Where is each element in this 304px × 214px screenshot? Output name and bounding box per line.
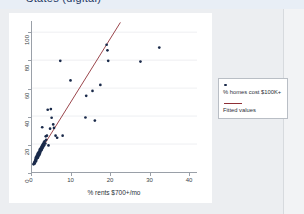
y-tick-label: 80 (24, 60, 30, 76)
x-tick-label: 10 (63, 177, 79, 183)
x-tick-mark (189, 173, 190, 176)
legend-entry-fitted: Fitted values (223, 100, 283, 114)
x-axis-title: % rents $700+/mo (31, 189, 197, 196)
x-tick-mark (110, 173, 111, 176)
y-tick-label: 40 (24, 116, 30, 132)
y-tick-label: 60 (24, 88, 30, 104)
fitted-line-icon (223, 100, 283, 106)
legend-label-scatter: % homes cost $100K+ (223, 89, 283, 96)
slide-title-strip: States (digital) (0, 0, 304, 9)
slide-page: States (digital) 020406080100 010203040 … (0, 0, 304, 214)
scatter-dot-icon (223, 82, 283, 88)
chart-figure: 020406080100 010203040 % rents $700+/mo (9, 13, 212, 203)
legend-entry-scatter: % homes cost $100K+ (223, 82, 283, 96)
x-tick-label: 0 (23, 177, 39, 183)
plot-area (31, 21, 197, 173)
x-tick-mark (71, 173, 72, 176)
x-tick-label: 20 (102, 177, 118, 183)
slide-title-cutoff: States (digital) (26, 0, 101, 4)
x-tick-mark (150, 173, 151, 176)
scatter-plot-canvas (32, 21, 197, 172)
y-tick-label: 20 (24, 144, 30, 160)
x-tick-label: 30 (142, 177, 158, 183)
x-tick-label: 40 (181, 177, 197, 183)
legend-label-fitted: Fitted values (223, 107, 283, 114)
y-tick-label: 100 (24, 32, 30, 48)
chart-legend: % homes cost $100K+ Fitted values (218, 78, 288, 119)
x-tick-mark (31, 173, 32, 176)
